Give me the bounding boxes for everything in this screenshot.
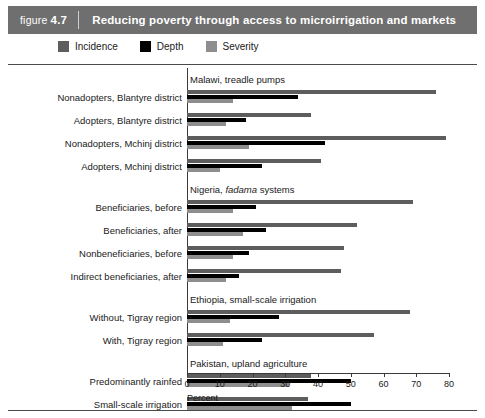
- category-row: Adopters, Mchinj district: [0, 161, 187, 171]
- category-label: With, Tigray region: [7, 335, 187, 346]
- legend-swatch-icon: [140, 41, 151, 52]
- category-row: Small-scale irrigation: [0, 399, 187, 409]
- bar-depth: [187, 251, 249, 255]
- bar-incidence: [187, 374, 311, 378]
- bar-incidence: [187, 200, 413, 204]
- category-label: Adopters, Blantyre district: [7, 115, 187, 126]
- bar-depth: [187, 379, 351, 383]
- bar-depth: [187, 315, 279, 319]
- x-tick-mark: [220, 373, 221, 377]
- bar-severity: [187, 99, 233, 103]
- x-tick-mark: [384, 373, 385, 377]
- category-row: Without, Tigray region: [0, 312, 187, 322]
- category-label: Adopters, Mchinj district: [7, 161, 187, 172]
- bar-severity: [187, 145, 249, 149]
- category-row: Nonadopters, Mchinj district: [0, 138, 187, 148]
- category-label: Nonadopters, Blantyre district: [7, 92, 187, 103]
- group-header: Pakistan, upland agriculture: [190, 358, 307, 369]
- x-tick-mark: [416, 373, 417, 377]
- bar-depth: [187, 164, 262, 168]
- x-tick-mark: [187, 373, 188, 377]
- bar-severity: [187, 383, 289, 387]
- bar-severity: [187, 255, 233, 259]
- figure-banner: figure 4.7 Reducing poverty through acce…: [8, 6, 477, 34]
- legend-swatch-icon: [58, 41, 69, 52]
- bar-incidence: [187, 310, 410, 314]
- category-row: Beneficiaries, before: [0, 202, 187, 212]
- group-header: Malawi, treadle pumps: [190, 74, 285, 85]
- bar-depth: [187, 141, 325, 145]
- x-tick-label: 20: [247, 379, 257, 389]
- bar-severity: [187, 319, 230, 323]
- x-tick-label: 50: [346, 379, 356, 389]
- legend-item-severity: Severity: [206, 41, 259, 52]
- x-tick-label: 80: [444, 379, 454, 389]
- x-tick-label: 10: [215, 379, 225, 389]
- category-label: Small-scale irrigation: [7, 399, 187, 410]
- group-header: Nigeria, fadama systems: [190, 184, 295, 195]
- category-label: Nonbeneficiaries, before: [7, 248, 187, 259]
- x-tick-label: 70: [411, 379, 421, 389]
- figure-title: Reducing poverty through access to micro…: [92, 14, 456, 26]
- x-tick-label: 60: [378, 379, 388, 389]
- category-row: Beneficiaries, after: [0, 225, 187, 235]
- bar-incidence: [187, 136, 446, 140]
- legend-label: Severity: [223, 41, 259, 52]
- group-header-italic: fadama: [225, 184, 257, 195]
- category-label: Beneficiaries, after: [7, 225, 187, 236]
- x-tick-label: 30: [280, 379, 290, 389]
- legend-label: Depth: [157, 41, 184, 52]
- bar-depth: [187, 95, 298, 99]
- category-label: Indirect beneficiaries, after: [7, 271, 187, 282]
- bar-incidence: [187, 269, 341, 273]
- chart-plot-area: Malawi, treadle pumpsNonadopters, Blanty…: [0, 68, 485, 373]
- plot-bottom-rule: [8, 410, 477, 411]
- legend-item-depth: Depth: [140, 41, 184, 52]
- x-tick-mark: [318, 373, 319, 377]
- bar-incidence: [187, 113, 311, 117]
- category-row: Indirect beneficiaries, after: [0, 271, 187, 281]
- bar-depth: [187, 274, 239, 278]
- x-tick-mark: [285, 373, 286, 377]
- plot-top-rule: [8, 64, 477, 65]
- category-row: With, Tigray region: [0, 335, 187, 345]
- x-tick-label: 40: [313, 379, 323, 389]
- bar-severity: [187, 168, 220, 172]
- figure-number: 4.7: [51, 14, 68, 26]
- category-row: Nonadopters, Blantyre district: [0, 92, 187, 102]
- bar-depth: [187, 205, 256, 209]
- bar-severity: [187, 232, 243, 236]
- bar-severity: [187, 406, 292, 410]
- bar-severity: [187, 209, 233, 213]
- x-tick-label: 0: [184, 379, 189, 389]
- bar-depth: [187, 228, 266, 232]
- x-tick-mark: [351, 373, 352, 377]
- figure-number-label: figure 4.7: [8, 14, 67, 26]
- category-label: Without, Tigray region: [7, 312, 187, 323]
- legend-swatch-icon: [206, 41, 217, 52]
- bar-severity: [187, 122, 226, 126]
- category-label: Predominantly rainfed: [7, 376, 187, 387]
- bar-incidence: [187, 90, 436, 94]
- category-row: Nonbeneficiaries, before: [0, 248, 187, 258]
- bar-severity: [187, 278, 226, 282]
- banner-divider: [78, 11, 79, 29]
- figure-word: figure: [20, 14, 47, 26]
- category-row: Adopters, Blantyre district: [0, 115, 187, 125]
- x-tick-mark: [253, 373, 254, 377]
- x-axis-title: Percent: [187, 393, 218, 403]
- bar-incidence: [187, 333, 374, 337]
- legend-item-incidence: Incidence: [58, 41, 118, 52]
- bar-severity: [187, 342, 223, 346]
- category-label: Nonadopters, Mchinj district: [7, 138, 187, 149]
- category-row: Predominantly rainfed: [0, 376, 187, 386]
- group-header: Ethiopia, small-scale irrigation: [190, 294, 316, 305]
- bar-incidence: [187, 246, 344, 250]
- chart-legend: IncidenceDepthSeverity: [58, 41, 281, 52]
- legend-label: Incidence: [75, 41, 118, 52]
- bar-incidence: [187, 159, 321, 163]
- x-tick-mark: [449, 373, 450, 377]
- bar-incidence: [187, 223, 357, 227]
- bar-depth: [187, 118, 246, 122]
- bar-depth: [187, 338, 262, 342]
